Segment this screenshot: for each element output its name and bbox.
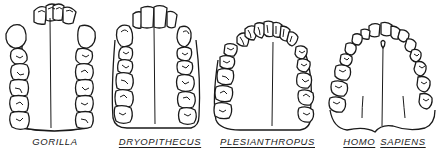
species-name: GORILLA — [32, 136, 77, 147]
species-name: PLESIANTHROPUS — [220, 136, 315, 147]
species-name: SAPIENS — [380, 136, 425, 147]
panel-plesianthropus: PLESIANTHROPUS — [210, 0, 330, 156]
label-plesianthropus: PLESIANTHROPUS — [210, 136, 325, 147]
dryopithecus-dental-arch-drawing — [105, 0, 215, 156]
label-homo-sapiens: HOMOSAPIENS — [325, 136, 444, 147]
plesianthropus-dental-arch-drawing — [210, 0, 330, 156]
panel-dryopithecus: DRYOPITHECUS — [105, 0, 215, 156]
label-dryopithecus: DRYOPITHECUS — [105, 136, 215, 147]
homo-sapiens-dental-arch-drawing — [325, 0, 444, 156]
label-gorilla: GORILLA — [0, 136, 110, 147]
panel-gorilla: GORILLA — [0, 0, 110, 156]
genus-name: HOMO — [343, 136, 375, 147]
gorilla-dental-arch-drawing — [0, 0, 110, 156]
species-name: DRYOPITHECUS — [119, 136, 201, 147]
panel-homo-sapiens: HOMOSAPIENS — [325, 0, 444, 156]
